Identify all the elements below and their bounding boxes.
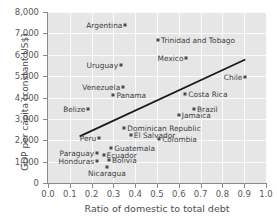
data-point-label: Trinidad and Tobago <box>161 36 235 45</box>
data-point <box>112 94 115 97</box>
data-point <box>122 86 125 89</box>
data-point <box>123 126 126 129</box>
data-point-label: Argentina <box>86 21 122 30</box>
chart-root: 01,0002,0003,0004,0005,0006,0007,0008,00… <box>0 0 277 220</box>
data-point <box>96 160 99 163</box>
data-point <box>96 151 99 154</box>
data-point <box>108 159 111 162</box>
data-point-label: Chile <box>224 72 243 81</box>
data-point <box>124 24 127 27</box>
data-point-label: Mexico <box>158 54 184 63</box>
data-point <box>129 133 132 136</box>
data-point <box>110 146 113 149</box>
data-point-label: Peru <box>80 133 96 142</box>
data-point-label: Nicaragua <box>88 169 126 178</box>
data-point <box>98 136 101 139</box>
data-point <box>120 64 123 67</box>
data-point <box>184 93 187 96</box>
data-point-label: Panama <box>116 91 146 100</box>
data-point <box>102 153 105 156</box>
data-point-label: Bolivia <box>112 156 137 165</box>
data-point-label: Honduras <box>58 157 94 166</box>
data-point-label: Costa Rica <box>188 90 227 99</box>
data-point <box>87 108 90 111</box>
data-point <box>244 75 247 78</box>
data-point-label: Uruguay <box>87 61 118 70</box>
y-axis-title: GDP per capita (constant US$) <box>20 22 30 182</box>
data-point-label: Belize <box>63 105 85 114</box>
data-point-label: Jamaica <box>182 110 211 119</box>
trend-line <box>0 0 277 220</box>
data-point <box>185 57 188 60</box>
data-point <box>157 39 160 42</box>
data-point <box>158 137 161 140</box>
data-point-label: Colombia <box>162 134 197 143</box>
data-point <box>177 113 180 116</box>
x-axis-title: Ratio of domestic to total debt <box>48 203 266 214</box>
data-point-label: Venezuela <box>82 83 120 92</box>
